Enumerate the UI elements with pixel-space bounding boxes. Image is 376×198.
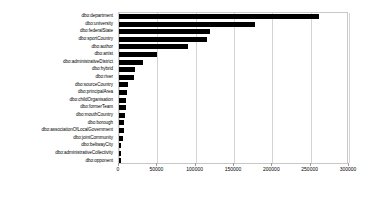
x-axis-tick-label: 250000 [301,166,318,173]
bar[interactable] [119,52,157,57]
bar-row[interactable] [119,127,349,135]
bar[interactable] [119,113,125,118]
y-axis-tick-label: dbo:author [92,44,113,49]
bar-row[interactable] [119,97,349,105]
x-axis-tick-label: 300000 [340,166,357,173]
x-axis-tick-label: 100000 [186,166,203,173]
bar[interactable] [119,158,121,163]
y-axis-tick-label: dbo:artist [95,51,113,56]
bar-row[interactable] [119,28,349,36]
bar[interactable] [119,14,319,19]
y-axis-tick-label: dbo:opponent [85,158,113,163]
y-axis-tick-label: dbo:administrativeCollectivity [55,150,113,155]
bar-row[interactable] [119,112,349,120]
bar[interactable] [119,90,127,95]
bar[interactable] [119,44,188,49]
bar-row[interactable] [119,59,349,67]
bar[interactable] [119,120,124,125]
y-axis-tick-label: dbo:sportCountry [79,36,113,41]
bar-row[interactable] [119,135,349,143]
bar[interactable] [119,143,121,148]
bar-series [119,13,347,163]
y-axis-tick-label: dbo:department [82,13,113,18]
bar-row[interactable] [119,150,349,158]
y-axis-tick-label: dbo:childOrganisation [70,97,113,102]
bar[interactable] [119,98,126,103]
y-axis-tick-label: dbo:university [85,21,113,26]
y-axis-tick-label: dbo:borough [88,120,113,125]
y-axis-tick-label: dbo:federalState [80,28,113,33]
bar-row[interactable] [119,13,349,21]
y-axis-tick-label: dbo:river [96,74,113,79]
y-axis-tick-labels: dbo:departmentdbo:universitydbo:federalS… [0,12,116,164]
plot-area [118,12,348,164]
gridline [349,13,350,163]
y-axis-tick-label: dbo:formerTeam [80,104,113,109]
bar[interactable] [119,60,143,65]
bar-row[interactable] [119,21,349,29]
bar[interactable] [119,136,123,141]
bar[interactable] [119,22,255,27]
bar-row[interactable] [119,43,349,51]
bar-row[interactable] [119,119,349,127]
bar[interactable] [119,37,207,42]
bar-row[interactable] [119,81,349,89]
y-axis-tick-label: dbo:mouthCountry [76,112,113,117]
bar-row[interactable] [119,51,349,59]
y-axis-tick-label: dbo:jointCommunity [73,135,113,140]
bar[interactable] [119,67,135,72]
bar[interactable] [119,75,134,80]
x-axis-tick-label: 0 [117,166,120,173]
bar-row[interactable] [119,89,349,97]
y-axis-tick-label: dbo:sourceCountry [75,82,113,87]
x-axis-tick-labels: 050000100000150000200000250000300000 [0,166,376,180]
y-axis-tick-label: dbo:principalArea [78,89,113,94]
bar-row[interactable] [119,142,349,150]
y-axis-tick-label: dbo:beltwayCity [81,142,113,147]
bar[interactable] [119,128,124,133]
x-axis-tick-label: 50000 [149,166,163,173]
bar[interactable] [119,82,128,87]
bar[interactable] [119,151,121,156]
bar-row[interactable] [119,36,349,44]
bar[interactable] [119,105,126,110]
y-axis-tick-label: dbo:administrativeDistrict [63,59,113,64]
y-axis-tick-label: dbo:associationOfLocalGovernment [42,127,113,132]
bar-row[interactable] [119,157,349,165]
bar-chart: dbo:departmentdbo:universitydbo:federalS… [0,0,376,198]
bar-row[interactable] [119,66,349,74]
x-axis-tick-label: 150000 [225,166,242,173]
y-axis-tick-label: dbo:hybrid [92,66,113,71]
x-axis-tick-label: 200000 [263,166,280,173]
bar[interactable] [119,29,210,34]
bar-row[interactable] [119,104,349,112]
bar-row[interactable] [119,74,349,82]
